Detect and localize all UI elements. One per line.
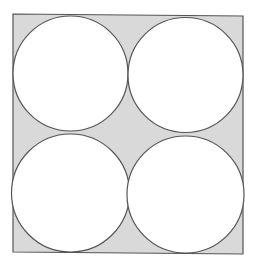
circle-bottom-left — [12, 134, 130, 252]
circle-bottom-right — [127, 136, 244, 253]
diagram-figure — [0, 0, 258, 268]
circle-top-left — [13, 16, 128, 131]
diagram-svg — [0, 0, 258, 268]
circle-top-right — [128, 18, 243, 133]
